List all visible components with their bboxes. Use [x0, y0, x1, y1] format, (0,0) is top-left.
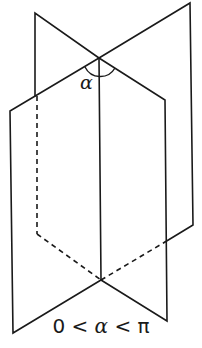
intersection-line	[99, 58, 101, 280]
angle-label-alpha: α	[80, 71, 93, 93]
dihedral-angle-diagram: α	[0, 0, 202, 348]
caption-left: 0 <	[52, 314, 88, 338]
caption-right: < π	[114, 314, 149, 338]
plane-a-hidden-bottom-edge	[37, 234, 101, 280]
caption-variable: α	[95, 314, 109, 338]
plane-b-hidden-bottom-edge	[101, 242, 165, 280]
angle-range-caption: 0 < α < π	[0, 314, 202, 338]
